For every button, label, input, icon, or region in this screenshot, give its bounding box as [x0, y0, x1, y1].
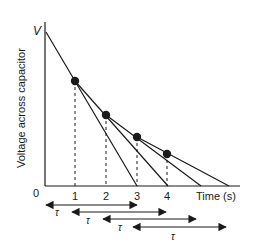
tau-label-4: τ	[171, 231, 176, 242]
origin-label: 0	[33, 187, 39, 199]
tick-1: 1	[72, 190, 78, 202]
data-points	[71, 77, 171, 158]
tau-label-3: τ	[118, 222, 123, 233]
tick-4: 4	[164, 190, 170, 202]
tau-label-2: τ	[86, 215, 91, 226]
x-axis-label: Time (s)	[196, 190, 236, 202]
capacitor-discharge-diagram: V 0 1 2 3 4 Time (s) Voltage across capa…	[0, 0, 257, 252]
v-label: V	[33, 24, 42, 38]
y-axis-label: Voltage across capacitor	[15, 48, 27, 168]
tick-2: 2	[103, 190, 109, 202]
tick-3: 3	[134, 190, 140, 202]
tau-arrows	[46, 205, 226, 227]
tau-label-1: τ	[55, 207, 60, 218]
